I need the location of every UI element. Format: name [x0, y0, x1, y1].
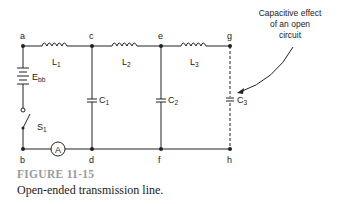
annotation-line-1: Capacitive effect: [259, 8, 322, 18]
node-label-b: b: [20, 155, 25, 165]
node-label-f: f: [158, 155, 161, 165]
annotation: Capacitive effect of an open circuit: [259, 8, 322, 40]
capacitor-c1: [87, 46, 97, 149]
switch-s1: [22, 114, 31, 149]
capacitor-c2-label: C2: [168, 95, 179, 106]
inductor-l1-label: L1: [52, 57, 61, 68]
capacitor-c3-dashed: [226, 46, 234, 149]
battery-branch: [17, 46, 29, 112]
annotation-arrow-icon: [237, 47, 293, 94]
capacitor-c3-label: C3: [237, 95, 248, 106]
capacitor-c1-label: C1: [99, 95, 110, 106]
inductor-l3-label: L3: [190, 57, 199, 68]
capacitor-c2: [156, 46, 166, 149]
node-label-d: d: [89, 155, 94, 165]
circuit-diagram: a c e g b d f h L1 L2 L3 C1 C2 C3 Ebb S1…: [0, 0, 350, 165]
node-label-e: e: [158, 31, 163, 41]
annotation-line-3: circuit: [279, 30, 302, 40]
node-label-c: c: [89, 31, 94, 41]
node-label-g: g: [227, 31, 232, 41]
switch-label: S1: [37, 122, 47, 133]
annotation-line-2: of an open: [270, 19, 310, 29]
figure-number: FIGURE 11-15: [17, 168, 94, 180]
node-label-a: a: [20, 31, 25, 41]
inductor-l2-label: L2: [122, 57, 131, 68]
figure-caption: Open-ended transmission line.: [17, 183, 163, 198]
inductor-l3: [181, 43, 208, 46]
ammeter-label: A: [55, 145, 61, 155]
battery-label: Ebb: [32, 72, 46, 83]
inductor-l2: [112, 43, 140, 46]
node-label-h: h: [227, 155, 232, 165]
inductor-l1: [42, 43, 70, 46]
